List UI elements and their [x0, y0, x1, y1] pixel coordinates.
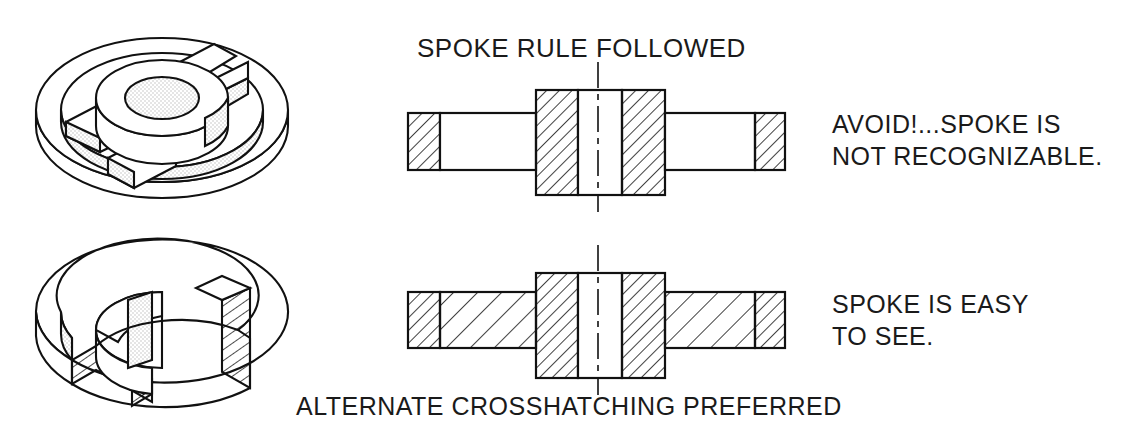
section-title-label: SPOKE RULE FOLLOWED: [417, 33, 746, 64]
top-right-spoke-web: [665, 113, 755, 170]
bottom-hub-bore: [578, 273, 622, 378]
top-hub-left-flange: [536, 90, 578, 195]
cut-face-right-rim: [222, 288, 250, 388]
bottom-left-spoke-web: [440, 292, 536, 348]
bottom-caption-label: ALTERNATE CROSSHATCHING PREFERRED: [296, 392, 842, 421]
bottom-hub-left-flange: [536, 273, 578, 378]
spoked-wheel-cutaway-pictorial: [36, 238, 288, 407]
avoid-note-line-2: NOT RECOGNIZABLE.: [832, 142, 1103, 171]
preferred-note-line-2: TO SEE.: [832, 322, 934, 351]
top-hub-right-flange: [622, 90, 665, 195]
top-right-rim: [755, 113, 785, 170]
section-view-spoke-hatched: [408, 62, 785, 212]
preferred-note-line-1: SPOKE IS EASY: [832, 290, 1029, 319]
technical-drawing-svg: [0, 0, 1129, 440]
top-hub-bore: [578, 90, 622, 195]
section-view-spoke-alternate-hatched: [408, 245, 785, 395]
top-left-rim: [408, 113, 440, 170]
cut-hub-bore: [128, 292, 152, 368]
top-left-spoke-web: [440, 113, 536, 170]
bottom-right-rim: [755, 292, 785, 348]
hub-bore: [125, 77, 199, 119]
bottom-right-spoke-web: [665, 292, 755, 348]
bottom-left-rim: [408, 292, 440, 348]
spoked-wheel-pictorial: [36, 38, 288, 198]
avoid-note-line-1: AVOID!...SPOKE IS: [832, 110, 1061, 139]
drawing-canvas: SPOKE RULE FOLLOWED AVOID!...SPOKE IS NO…: [0, 0, 1129, 440]
bottom-hub-right-flange: [622, 273, 665, 378]
